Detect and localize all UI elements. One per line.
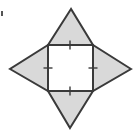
four-pointed-star-diagram [0, 0, 140, 134]
edge-speck-artifact [1, 11, 3, 16]
central-square [48, 45, 93, 91]
geometry-figure-container [0, 0, 140, 134]
